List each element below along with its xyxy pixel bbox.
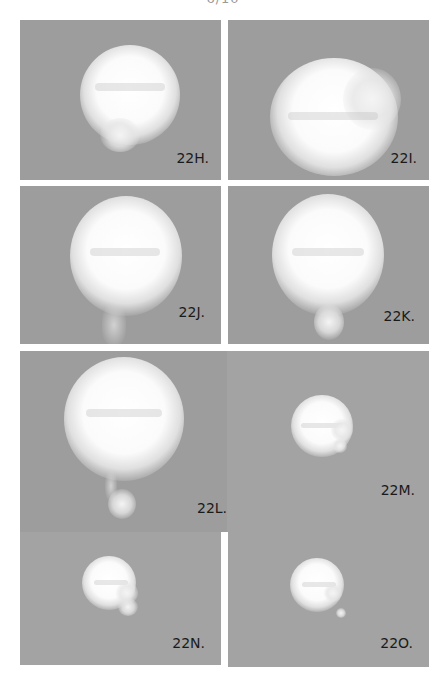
- cell-band: [90, 248, 160, 256]
- panel-label: 22K.: [384, 308, 415, 324]
- figure-panel-22l: 22L.: [20, 351, 227, 532]
- cell-bud: [100, 118, 140, 152]
- figure-panel-22m: 22M.: [227, 351, 429, 532]
- cell-band: [288, 112, 378, 120]
- cell-band: [86, 409, 162, 417]
- cell-bud-small: [333, 439, 347, 453]
- figure-panel-22h: 22H.: [20, 20, 221, 180]
- panel-label: 22M.: [381, 482, 415, 498]
- figure-panel-22i: 22I.: [228, 20, 429, 180]
- cell-tail: [102, 304, 126, 344]
- cell-bud-small: [336, 608, 346, 618]
- cell-body: [64, 357, 184, 481]
- cell-bud: [314, 304, 344, 340]
- figure-panel-22j: 22J.: [20, 186, 221, 344]
- panel-label: 22N.: [172, 635, 205, 651]
- cell-bud: [343, 68, 401, 130]
- cell-band: [95, 83, 165, 91]
- cell-bud: [324, 584, 342, 602]
- cell-bud-small: [118, 598, 138, 616]
- panel-label: 22L.: [197, 500, 227, 516]
- panel-label: 22O.: [380, 635, 413, 651]
- page-number: 6/10: [0, 0, 446, 6]
- figure-panel-22k: 22K.: [228, 186, 429, 344]
- panel-separator: [221, 532, 228, 672]
- cell-body: [70, 196, 182, 316]
- cell-bud: [331, 419, 353, 441]
- cell-bud: [108, 489, 136, 519]
- panel-label: 22H.: [176, 150, 209, 166]
- panel-label: 22I.: [391, 150, 417, 166]
- cell-band: [292, 248, 364, 256]
- panel-label: 22J.: [179, 304, 205, 320]
- figure-panel-22o: 22O.: [228, 532, 429, 667]
- figure-panel-22n: 22N.: [20, 532, 221, 665]
